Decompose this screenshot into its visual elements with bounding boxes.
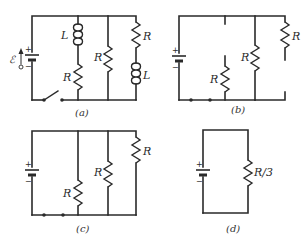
branch-3: R bbox=[132, 137, 151, 163]
resistor-icon bbox=[104, 46, 112, 72]
plus-sign: + bbox=[25, 45, 32, 54]
resistor-label: R bbox=[291, 30, 300, 43]
branch-2: R bbox=[93, 131, 112, 215]
wire-top bbox=[179, 16, 285, 53]
resistor-icon bbox=[74, 64, 82, 90]
panel-d: + − R/3 (d) bbox=[196, 130, 273, 234]
inductor-icon bbox=[74, 24, 83, 45]
caption-d: (d) bbox=[226, 223, 240, 234]
caption-a: (a) bbox=[75, 107, 89, 118]
panel-a: + − ℰ L R R bbox=[9, 16, 151, 118]
branch-2: R bbox=[93, 16, 112, 100]
panel-b: + − R R R (b) bbox=[172, 16, 300, 115]
inductor-label: L bbox=[60, 29, 68, 42]
emf-arrow-icon bbox=[19, 48, 24, 69]
resistor-label: R bbox=[142, 145, 151, 158]
branch-1: R bbox=[209, 16, 229, 100]
wire-top bbox=[32, 131, 136, 167]
branch-1: R bbox=[62, 131, 82, 215]
contact-dot bbox=[189, 98, 193, 102]
resistor-icon bbox=[281, 22, 289, 48]
resistor-icon bbox=[74, 180, 82, 206]
resistor-icon bbox=[244, 160, 252, 186]
resistor-icon bbox=[132, 22, 140, 48]
minus-sign: − bbox=[196, 177, 203, 186]
resistor-label-r3: R/3 bbox=[253, 166, 273, 179]
resistor-label: R bbox=[209, 73, 218, 86]
resistor-label: R bbox=[93, 51, 102, 64]
resistor-icon bbox=[132, 137, 140, 163]
caption-b: (b) bbox=[231, 104, 245, 115]
wire-top bbox=[203, 130, 248, 167]
inductor-icon bbox=[132, 63, 141, 84]
resistor-icon bbox=[221, 66, 229, 92]
resistor-label: R bbox=[240, 51, 249, 64]
resistor-label: R bbox=[62, 71, 71, 84]
resistor-label: R bbox=[62, 187, 71, 200]
contact-dot bbox=[208, 98, 212, 102]
minus-sign: − bbox=[172, 63, 179, 72]
plus-sign: + bbox=[172, 46, 179, 55]
resistor-icon bbox=[104, 161, 112, 187]
plus-sign: + bbox=[196, 160, 203, 169]
switch bbox=[42, 91, 64, 102]
resistor-label: R bbox=[93, 166, 102, 179]
plus-sign: + bbox=[25, 160, 32, 169]
contact-dot bbox=[61, 213, 65, 217]
circuit-figure: + − ℰ L R R bbox=[0, 0, 307, 240]
resistor-label: R bbox=[142, 30, 151, 43]
branch-3: R L bbox=[132, 22, 152, 100]
wire-top bbox=[32, 16, 136, 52]
minus-sign: − bbox=[25, 62, 32, 71]
branch-2: R bbox=[240, 16, 259, 100]
contact-dot bbox=[42, 213, 46, 217]
caption-c: (c) bbox=[76, 223, 90, 234]
wire-bottom bbox=[203, 186, 248, 213]
emf-label: ℰ bbox=[9, 54, 16, 65]
panel-c: + − R R R (c) bbox=[25, 131, 151, 234]
inductor-label: L bbox=[142, 69, 150, 82]
branch-3: R bbox=[281, 22, 300, 60]
minus-sign: − bbox=[25, 177, 32, 186]
branch-1: L R bbox=[60, 16, 83, 100]
resistor-icon bbox=[251, 45, 259, 71]
